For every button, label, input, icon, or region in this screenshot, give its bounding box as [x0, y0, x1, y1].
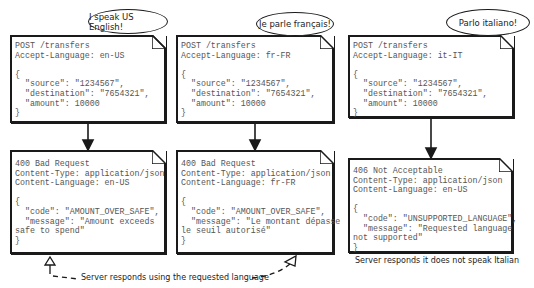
arrow-hollow-icon: [285, 256, 296, 266]
request-text: POST /transfers Accept-Language: it-IT {…: [353, 41, 487, 118]
request-box-it: POST /transfers Accept-Language: it-IT {…: [348, 35, 514, 118]
response-text: 400 Bad Request Content-Type: applicatio…: [15, 159, 164, 245]
caption-requested-language: Server responds using the requested lang…: [81, 273, 269, 282]
speech-bubble-it: Parlo italiano!: [446, 9, 530, 36]
folded-corner-icon: [500, 35, 514, 49]
folded-corner-icon: [320, 35, 334, 49]
folded-corner-icon: [152, 35, 166, 49]
request-text: POST /transfers Accept-Language: en-US {…: [15, 41, 149, 118]
response-box-en: 400 Bad Request Content-Type: applicatio…: [10, 150, 166, 254]
response-box-it: 406 Not Acceptable Content-Type: applica…: [348, 158, 513, 253]
response-box-fr: 400 Bad Request Content-Type: applicatio…: [176, 150, 334, 254]
dashed-connector-left: [53, 276, 78, 279]
speech-bubble-en: I speak US English!: [88, 9, 168, 34]
response-text: 406 Not Acceptable Content-Type: applica…: [353, 166, 517, 252]
caption-no-italian: Server responds it does not speak Italia…: [355, 256, 519, 265]
speech-bubble-fr: Je parle français!: [256, 12, 334, 36]
request-box-fr: POST /transfers Accept-Language: fr-FR {…: [176, 35, 334, 123]
request-box-en: POST /transfers Accept-Language: en-US {…: [10, 35, 166, 123]
arrow-up-hollow-icon: [45, 257, 55, 274]
response-text: 400 Bad Request Content-Type: applicatio…: [181, 159, 340, 245]
request-text: POST /transfers Accept-Language: fr-FR {…: [181, 41, 315, 118]
